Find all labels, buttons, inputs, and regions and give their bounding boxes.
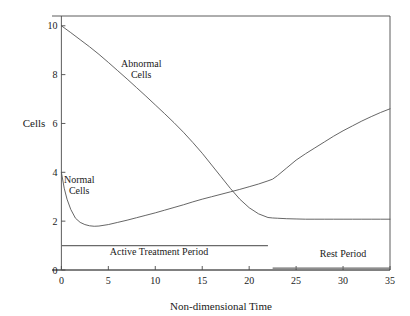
abnormal-cells-label-line: Cells [131,69,152,80]
x-tick-label: 15 [197,275,207,286]
y-axis-title: Cells [23,117,46,129]
x-tick-label: 30 [338,275,348,286]
y-tick-label: 2 [52,216,57,227]
y-tick-label: 10 [47,20,57,31]
y-tick-label: 6 [52,118,57,129]
abnormal-cells-label-line: Abnormal [121,58,162,69]
x-tick-label: 10 [150,275,160,286]
x-axis-title: Non-dimensional Time [170,300,272,312]
chart-figure: 051015202530350246810 AbnormalCellsNorma… [0,0,410,316]
normal-cells-label-line: Cells [69,185,90,196]
rest-period-label: Rest Period [320,248,366,259]
x-tick-label: 5 [106,275,111,286]
normal-cells-label-line: Normal [64,174,95,185]
x-tick-label: 20 [244,275,254,286]
x-tick-label: 25 [291,275,301,286]
x-tick-label: 35 [385,275,395,286]
x-tick-label: 0 [59,275,64,286]
active-treatment-period-label: Active Treatment Period [110,246,208,257]
y-tick-label: 8 [52,69,57,80]
y-tick-label: 0 [52,265,57,276]
y-tick-label: 4 [52,167,57,178]
cells-vs-time-line-chart: 051015202530350246810 AbnormalCellsNorma… [0,0,410,316]
